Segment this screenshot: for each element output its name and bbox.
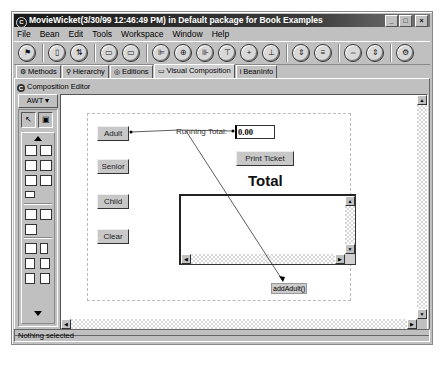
selection-tool-icon[interactable]: ↖ bbox=[21, 112, 36, 128]
menu-bar: File Bean Edit Tools Workspace Window He… bbox=[14, 28, 430, 40]
tab-label: Methods bbox=[28, 67, 57, 76]
textarea-corner bbox=[345, 254, 355, 264]
toolbar-separator bbox=[390, 44, 392, 62]
canvas-horizontal-scrollbar[interactable] bbox=[61, 319, 417, 329]
canvas-vertical-scrollbar[interactable] bbox=[417, 95, 427, 319]
distribute-h-icon[interactable]: ⇕ bbox=[292, 44, 310, 62]
menu-bean-icon[interactable] bbox=[25, 273, 35, 284]
adult-button[interactable]: Adult bbox=[97, 126, 129, 141]
total-text-area[interactable]: ▲ ▼ ◀ ▶ bbox=[179, 194, 356, 265]
tab-order-icon[interactable]: ▭ bbox=[100, 44, 118, 62]
scroll-right-icon[interactable]: ▶ bbox=[407, 319, 417, 329]
align-top-icon[interactable]: ⊤ bbox=[218, 44, 236, 62]
align-bottom-icon[interactable]: ⊥ bbox=[262, 44, 280, 62]
tab-label: Visual Composition bbox=[167, 66, 231, 75]
align-middle-icon[interactable]: + bbox=[240, 44, 258, 62]
toolbar-separator bbox=[42, 44, 44, 62]
choose-bean-icon[interactable]: ▣ bbox=[38, 112, 53, 128]
menu-file[interactable]: File bbox=[17, 28, 31, 40]
scroll-right-icon[interactable]: ▶ bbox=[335, 254, 345, 264]
scroll-left-icon[interactable]: ◀ bbox=[61, 319, 71, 329]
filedialog-bean-icon[interactable] bbox=[25, 258, 35, 269]
status-bar: Nothing selected bbox=[14, 329, 430, 342]
scroll-up-icon[interactable]: ▲ bbox=[417, 95, 427, 105]
textarea-horizontal-scrollbar[interactable] bbox=[181, 254, 345, 264]
clear-button[interactable]: Clear bbox=[97, 229, 129, 244]
dialog-bean-icon[interactable] bbox=[40, 243, 48, 254]
close-button[interactable]: × bbox=[415, 15, 428, 27]
scrollpane-bean-icon[interactable] bbox=[40, 209, 52, 220]
tab-visual-composition[interactable]: ▭Visual Composition bbox=[154, 64, 235, 79]
menu-help[interactable]: Help bbox=[212, 28, 229, 40]
scroll-down-icon[interactable] bbox=[34, 311, 42, 316]
child-button[interactable]: Child bbox=[97, 194, 129, 209]
popupmenu-bean-icon[interactable] bbox=[40, 273, 50, 284]
palette-items bbox=[21, 132, 55, 324]
free-form-surface[interactable]: Adult Senior Child Clear Running Total: … bbox=[60, 94, 428, 330]
maximize-button[interactable]: □ bbox=[399, 15, 412, 27]
align-right-icon[interactable]: ⊪ bbox=[196, 44, 214, 62]
tab-hierarchy[interactable]: ⚲Hierarchy bbox=[62, 65, 109, 79]
tab-strip: ⚙Methods ⚲Hierarchy ◎Editions ▭Visual Co… bbox=[16, 65, 278, 78]
main-window: CMovieWicket(3/30/99 12:46:49 PM) in Def… bbox=[11, 11, 433, 345]
title-bar[interactable]: CMovieWicket(3/30/99 12:46:49 PM) in Def… bbox=[14, 14, 430, 27]
match-height-icon[interactable]: ⇕ bbox=[366, 44, 384, 62]
tab-beaninfo[interactable]: iBeanInfo bbox=[236, 65, 278, 79]
menu-workspace[interactable]: Workspace bbox=[121, 28, 163, 40]
textfield-bean-icon[interactable] bbox=[25, 160, 37, 171]
checkbox-bean-icon[interactable] bbox=[25, 175, 37, 186]
method-label-addadult[interactable]: addAdult() bbox=[271, 283, 307, 294]
list-bean-icon[interactable] bbox=[40, 175, 52, 186]
label-bean-icon[interactable] bbox=[40, 145, 52, 156]
visual-composition-icon: ▭ bbox=[158, 67, 165, 74]
scrollbar-bean-icon[interactable] bbox=[25, 191, 35, 198]
menu-bean[interactable]: Bean bbox=[40, 28, 60, 40]
tab-editions[interactable]: ◎Editions bbox=[110, 65, 153, 79]
status-text: Nothing selected bbox=[18, 331, 74, 340]
scroll-up-icon[interactable]: ▲ bbox=[345, 196, 355, 206]
tab-label: BeanInfo bbox=[243, 67, 273, 76]
hierarchy-icon[interactable]: ⇅ bbox=[70, 44, 88, 62]
textarea-bean-icon[interactable] bbox=[40, 160, 52, 171]
bean-palette: ↖ ▣ bbox=[18, 109, 58, 327]
running-total-field[interactable]: 0.00 bbox=[235, 125, 275, 139]
scroll-up-icon[interactable] bbox=[34, 136, 42, 141]
bean-icon[interactable]: ▯ bbox=[48, 44, 66, 62]
toolbar-separator bbox=[94, 44, 96, 62]
frame-bean-icon[interactable] bbox=[25, 243, 37, 254]
menu-tools[interactable]: Tools bbox=[92, 28, 112, 40]
scrollbar-corner bbox=[417, 319, 427, 329]
composition-editor-title: Composition Editor bbox=[27, 82, 90, 91]
running-total-label[interactable]: Running Total: bbox=[176, 127, 227, 136]
tab-order2-icon[interactable]: ▭ bbox=[122, 44, 140, 62]
scroll-left-icon[interactable]: ◀ bbox=[181, 254, 191, 264]
properties-icon[interactable]: ⚙ bbox=[396, 44, 414, 62]
tab-methods[interactable]: ⚙Methods bbox=[16, 65, 61, 79]
scroll-down-icon[interactable]: ▼ bbox=[417, 309, 427, 319]
panel-bean-icon[interactable] bbox=[25, 209, 37, 220]
align-center-icon[interactable]: ⊕ bbox=[174, 44, 192, 62]
palette-divider bbox=[24, 237, 52, 239]
palette-category-dropdown[interactable]: AWT ▾ bbox=[18, 94, 58, 108]
window-bean-icon[interactable] bbox=[40, 258, 50, 269]
print-ticket-button[interactable]: Print Ticket bbox=[236, 151, 294, 166]
align-left-icon[interactable]: ⊫ bbox=[152, 44, 170, 62]
total-label[interactable]: Total bbox=[248, 172, 283, 189]
menu-edit[interactable]: Edit bbox=[69, 28, 84, 40]
menu-window[interactable]: Window bbox=[172, 28, 202, 40]
tab-label: Editions bbox=[122, 67, 149, 76]
scroll-down-icon[interactable]: ▼ bbox=[345, 244, 355, 254]
app-icon[interactable]: C bbox=[16, 17, 27, 27]
run-icon[interactable]: ⚑ bbox=[18, 44, 36, 62]
senior-button[interactable]: Senior bbox=[97, 159, 129, 174]
canvas-bean-icon[interactable] bbox=[25, 224, 37, 235]
minimize-button[interactable]: _ bbox=[385, 15, 398, 27]
window-title: MovieWicket(3/30/99 12:46:49 PM) in Defa… bbox=[29, 15, 323, 25]
editions-icon: ◎ bbox=[114, 68, 120, 75]
match-width-icon[interactable]: ⇔ bbox=[344, 44, 362, 62]
button-bean-icon[interactable] bbox=[25, 145, 37, 156]
toolbar-separator bbox=[146, 44, 148, 62]
composition-editor-icon: C bbox=[17, 84, 25, 92]
composition-editor-panel: CComposition Editor AWT ▾ ↖ ▣ bbox=[14, 78, 430, 336]
distribute-v-icon[interactable]: ≡ bbox=[314, 44, 332, 62]
